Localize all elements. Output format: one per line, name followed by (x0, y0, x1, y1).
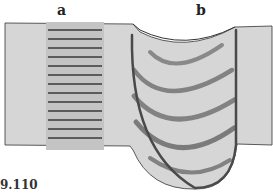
figure-illustration (0, 0, 273, 194)
label-a: a (57, 2, 66, 18)
label-b: b (196, 2, 206, 18)
figure-caption: 9.110 (0, 178, 38, 192)
panel-a-stripes (46, 22, 104, 150)
